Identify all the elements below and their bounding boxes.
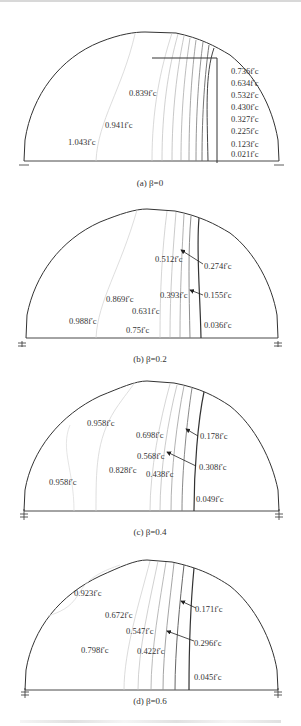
cropped-figure-caption — [0, 716, 301, 726]
contour-label: 0.393f′c — [160, 290, 188, 300]
contour-label: 0.296f′c — [194, 638, 222, 648]
leader-arrow — [186, 429, 198, 436]
contour-label: 0.547f′c — [126, 626, 154, 636]
support-right — [274, 688, 282, 698]
contour-label: 0.045f′c — [194, 672, 222, 682]
support-left — [18, 341, 26, 347]
contour-label: 0.178f′c — [200, 431, 228, 441]
contour-label: 0.75f′c — [126, 325, 150, 335]
contour-label: 0.631f′c — [132, 306, 160, 316]
contour-label: 0.021f′c — [231, 149, 259, 159]
panel-caption: (d) β=0.6 — [133, 696, 167, 706]
contour-label: 1.043f′c — [68, 137, 96, 147]
contour-label: 0.049f′c — [196, 494, 224, 504]
contour-label: 0.155f′c — [204, 290, 232, 300]
support-left — [21, 688, 29, 698]
contour-label: 0.274f′c — [204, 261, 232, 271]
panel-caption: (a) β=0 — [137, 178, 164, 188]
contour-label: 0.171f′c — [195, 604, 223, 614]
contour-label: 0.923f′c — [74, 588, 102, 598]
contour-label: 0.736f′c — [231, 66, 259, 76]
panel-caption: (c) β=0.4 — [133, 527, 167, 537]
contour-label: 0.672f′c — [105, 610, 133, 620]
contour-label: 0.512f′c — [155, 254, 183, 264]
contour-label: 0.123f′c — [231, 139, 259, 149]
contour-label: 0.698f′c — [136, 430, 164, 440]
contour-label: 0.422f′c — [137, 646, 165, 656]
contour-lines — [66, 382, 204, 511]
panel-a: 0.839f′c 0.941f′c 1.043f′c 0.736f′c 0.63… — [19, 32, 284, 188]
panel-d: 0.923f′c 0.171f′c 0.672f′c 0.547f′c 0.29… — [21, 560, 282, 706]
leader-arrow — [190, 290, 203, 295]
contour-label: 0.941f′c — [105, 120, 133, 130]
contour-label: 0.828f′c — [109, 465, 137, 475]
contour-label: 0.568f′c — [137, 451, 165, 461]
contour-label: 0.839f′c — [129, 88, 157, 98]
panel-c: 0.958f′c 0.698f′c 0.178f′c 0.568f′c 0.30… — [20, 381, 283, 537]
contour-label: 0.798f′c — [81, 645, 109, 655]
contour-label: 0.438f′c — [146, 469, 174, 479]
contour-label: 0.869f′c — [106, 294, 134, 304]
contour-label: 0.430f′c — [231, 102, 259, 112]
support-right — [274, 341, 282, 347]
arch-outline — [24, 381, 279, 511]
contour-lines — [48, 561, 194, 690]
leader-arrow — [167, 452, 196, 466]
panel-caption: (b) β=0.2 — [133, 354, 167, 364]
contour-label: 0.327f′c — [231, 114, 259, 124]
contour-label: 0.988f′c — [69, 316, 97, 326]
panel-b: 0.512f′c 0.274f′c 0.869f′c 0.393f′c 0.15… — [18, 209, 282, 364]
figure-canvas: 0.839f′c 0.941f′c 1.043f′c 0.736f′c 0.63… — [0, 0, 301, 726]
contour-label: 0.532f′c — [231, 90, 259, 100]
contour-label: 0.225f′c — [231, 126, 259, 136]
contour-label: 0.036f′c — [204, 320, 232, 330]
leader-arrow — [181, 250, 203, 264]
contour-label: 0.308f′c — [199, 462, 227, 472]
contour-lines — [96, 210, 201, 338]
arch-outline — [26, 209, 278, 338]
contour-label: 0.958f′c — [49, 477, 77, 487]
contour-label: 0.958f′c — [87, 418, 115, 428]
contour-label: 0.634f′c — [231, 78, 259, 88]
leader-arrow — [181, 601, 196, 608]
